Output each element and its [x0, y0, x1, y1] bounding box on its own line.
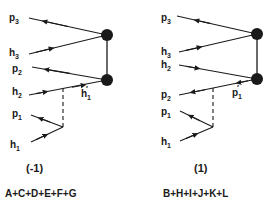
formula-right: B+H+I+J+K+L	[163, 188, 228, 199]
diagram-plus-one: p3 h3 h2 p2 p1′ p1 h1 (1) B+H+I+J+K+L	[161, 12, 263, 199]
arrow-p2-icon	[192, 90, 205, 93]
label-h2: h2	[12, 86, 22, 99]
arrow-p3-icon	[44, 21, 68, 26]
label-h3: h3	[161, 46, 171, 59]
line-h1	[180, 127, 213, 141]
arrow-h2-icon	[36, 92, 46, 94]
caption-minus-one: (-1)	[26, 162, 43, 174]
label-h3: h3	[9, 47, 19, 60]
label-p3: p3	[9, 12, 19, 25]
label-h2: h2	[161, 59, 171, 72]
arrow-p2-icon	[46, 69, 70, 73]
arrow-h3-icon	[36, 48, 52, 52]
label-h1-prime: h1′	[81, 84, 91, 101]
arrow-h3-icon	[186, 47, 200, 50]
arrow-p3-icon	[196, 20, 210, 23]
formula-left: A+C+D+E+F+G	[5, 188, 77, 199]
arrow-h1-icon	[186, 134, 196, 138]
arrow-p1-icon	[190, 116, 200, 121]
label-h1: h1	[161, 136, 171, 149]
label-p1: p1	[161, 106, 171, 119]
caption-plus-one: (1)	[194, 162, 208, 174]
label-p1: p1	[12, 108, 22, 121]
arrow-p1prime-icon	[238, 81, 248, 83]
diagram-minus-one: p3 h3 p2 h2 h1′ p1 h1 (-1) A+C+D+E+F+G	[5, 12, 113, 199]
arrow-h2-icon	[186, 66, 198, 68]
label-p2: p2	[12, 63, 22, 76]
label-p2: p2	[161, 89, 171, 102]
feynman-diagrams: p3 h3 p2 h2 h1′ p1 h1 (-1) A+C+D+E+F+G p…	[0, 0, 269, 203]
line-h1	[31, 127, 63, 142]
label-p3: p3	[161, 12, 171, 25]
arrow-p1-icon	[40, 118, 50, 122]
label-h1: h1	[10, 139, 20, 152]
line-p3	[177, 16, 257, 34]
arrow-h1-icon	[36, 135, 46, 140]
label-p1-prime: p1′	[232, 83, 242, 100]
